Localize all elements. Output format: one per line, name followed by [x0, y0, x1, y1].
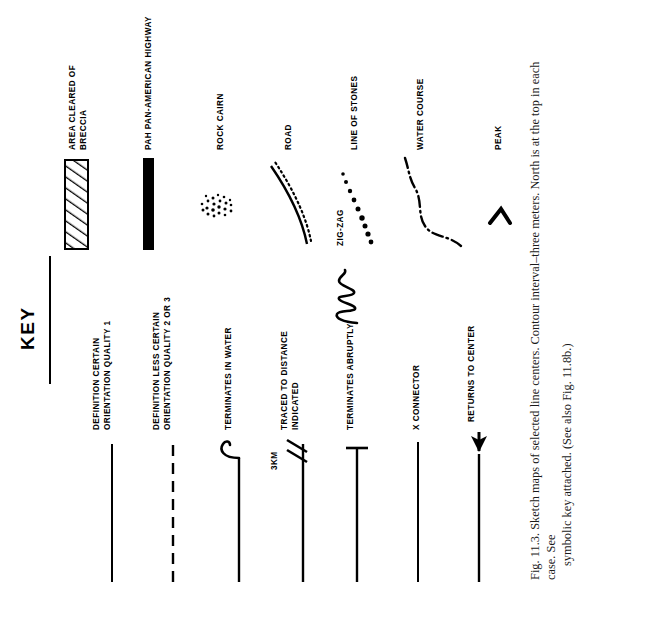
legend-label-line1: PEAK — [493, 125, 504, 150]
key-title-rule — [49, 256, 51, 384]
caption-line-2: symbolic key attached. (See also Fig. 11… — [559, 40, 575, 580]
legend-label-line1: PAH PAN-AMERICAN HIGHWAY — [143, 16, 154, 150]
legend-label-line1: X CONNECTOR — [411, 365, 422, 430]
figure-page: KEY DEFINITION CERTAIN ORIENTATION QUALI… — [0, 0, 646, 622]
figure-caption: Fig. 11.3. Sketch maps of selected line … — [527, 40, 575, 580]
legend-label-line1: DEFINITION CERTAIN — [91, 337, 102, 430]
legend-label-line1: ROAD — [283, 124, 294, 150]
key-title: KEY — [17, 306, 39, 350]
legend-label-line1: DEFINITION LESS CERTAIN — [151, 312, 162, 430]
legend-label-line2: ORIENTATION QUALITY 2 OR 3 — [162, 297, 173, 430]
legend-item-traced-to-distance: 3KM TRACED TO DISTANCE INDICATED — [265, 282, 321, 582]
legend-item-definition-less-certain: DEFINITION LESS CERTAIN ORIENTATION QUAL… — [145, 262, 193, 582]
distance-annotation: 3KM — [269, 451, 280, 470]
hatched-bar-symbol — [59, 158, 95, 250]
legend-item-returns-to-center: RETURNS TO CENTER — [451, 282, 501, 582]
plain-line-symbol — [417, 442, 419, 582]
line-with-crossbar-symbol — [341, 432, 371, 582]
legend-item-water-course: WATER COURSE — [403, 10, 479, 250]
road-svg — [267, 158, 311, 246]
stipple-svg — [199, 184, 239, 224]
legend-item-terminates-abruptly: TERMINATES ABRUPTLY — [331, 282, 379, 582]
peak-chevron-svg — [487, 190, 513, 226]
dot-chain-svg — [337, 158, 377, 246]
dashed-line-svg — [171, 442, 175, 582]
crossbar-line-svg — [341, 432, 371, 582]
legend-label-line1: ROCK CAIRN — [215, 93, 226, 150]
legend-label-line1: RETURNS TO CENTER — [466, 325, 477, 422]
dot-chain-symbol — [337, 158, 377, 246]
stipple-cluster-symbol — [199, 184, 239, 224]
figure-plate: KEY DEFINITION CERTAIN ORIENTATION QUALI… — [0, 0, 595, 622]
legend-label-line1: TRACED TO DISTANCE — [279, 331, 290, 430]
line-with-arrow-symbol — [459, 422, 491, 582]
zigzag-squiggle-symbol — [327, 262, 367, 326]
zigzag-svg — [327, 262, 367, 326]
chevron-icon — [487, 190, 513, 226]
thick-solid-bar-symbol — [143, 158, 154, 250]
hatched-bar-svg — [59, 158, 95, 250]
legend-item-terminates-in-water: TERMINATES IN WATER — [205, 282, 253, 582]
water-course-svg — [403, 152, 465, 248]
legend-label-line2: BRECCIA — [78, 110, 89, 150]
legend-label-line1: TERMINATES IN WATER — [223, 327, 234, 430]
solid-line-symbol — [111, 444, 113, 582]
line-with-hook-symbol — [213, 432, 247, 582]
legend-item-definition-certain: DEFINITION CERTAIN ORIENTATION QUALITY 1 — [85, 282, 133, 582]
legend-label-line1: TERMINATES ABRUPTLY — [345, 323, 356, 430]
dash-dot-curve-symbol — [403, 152, 465, 248]
legend-label-line1: WATER COURSE — [415, 78, 426, 150]
legend-item-peak: PEAK — [485, 10, 533, 250]
road-curve-symbol — [267, 158, 311, 246]
legend-item-x-connector: X CONNECTOR — [391, 282, 439, 582]
hook-line-svg — [213, 432, 247, 582]
legend-item-line-of-stones: LINE OF STONES — [335, 10, 395, 250]
arrow-line-svg — [459, 422, 491, 582]
legend-label-line2: INDICATED — [290, 382, 301, 430]
legend-label-line2: ORIENTATION QUALITY 1 — [102, 320, 113, 430]
legend-label-line1: LINE OF STONES — [349, 76, 360, 150]
caption-line-1: Fig. 11.3. Sketch maps of selected line … — [528, 62, 558, 580]
dashed-line-symbol — [171, 444, 175, 582]
legend-item-road: ROAD — [265, 10, 329, 250]
legend-label-line1: AREA CLEARED OF — [67, 65, 78, 150]
legend-item-area-cleared-of-breccia: AREA CLEARED OF BRECCIA — [59, 10, 139, 250]
legend-item-pan-american-highway: PAH PAN-AMERICAN HIGHWAY — [135, 0, 183, 250]
legend-item-rock-cairn: ROCK CAIRN — [199, 10, 255, 250]
